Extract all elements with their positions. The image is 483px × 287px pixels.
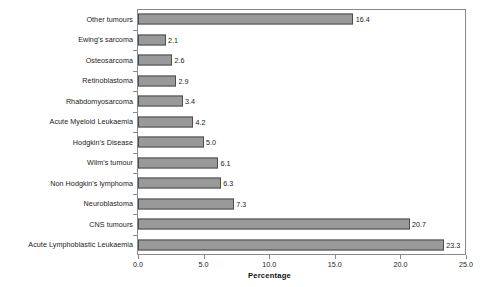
x-axis-tick — [335, 255, 336, 259]
y-axis-tick — [133, 112, 137, 113]
x-axis-tick-label: 25.0 — [446, 260, 483, 269]
bar-value-label: 3.4 — [185, 97, 195, 106]
bar-row: Other tumours16.4 — [0, 9, 483, 30]
bar-row: Wilm's tumour6.1 — [0, 153, 483, 174]
bar-with-value: 4.2 — [138, 116, 206, 127]
bar — [138, 34, 166, 45]
category-label: Wilm's tumour — [8, 158, 133, 167]
category-label: Acute Lymphoblastic Leukaemia — [8, 240, 133, 249]
bar-value-label: 2.9 — [179, 76, 189, 85]
bar-with-value: 20.7 — [138, 219, 426, 230]
x-axis-tick — [400, 255, 401, 259]
bar-row: Acute Lymphoblastic Leukaemia23.3 — [0, 235, 483, 256]
bar-row: Retinoblastoma2.9 — [0, 71, 483, 92]
category-label: Neuroblastoma — [8, 199, 133, 208]
bar-value-label: 16.4 — [356, 15, 370, 24]
bar-with-value: 3.4 — [138, 96, 195, 107]
bar-row: CNS tumours20.7 — [0, 214, 483, 235]
y-axis-tick — [133, 30, 137, 31]
y-axis-tick — [133, 91, 137, 92]
category-label: Retinoblastoma — [8, 76, 133, 85]
bar-row: Acute Myeloid Leukaemia4.2 — [0, 112, 483, 133]
bar — [138, 116, 193, 127]
bar-row: Neuroblastoma7.3 — [0, 194, 483, 215]
bar-with-value: 5.0 — [138, 137, 216, 148]
bar-value-label: 20.7 — [412, 220, 426, 229]
bar — [138, 96, 183, 107]
bar-with-value: 2.1 — [138, 34, 178, 45]
y-axis-tick — [133, 50, 137, 51]
category-label: Non Hodgkin's lymphoma — [8, 179, 133, 188]
bar-with-value: 2.6 — [138, 55, 185, 66]
x-axis-tick-label: 10.0 — [249, 260, 289, 269]
bar-with-value: 2.9 — [138, 75, 189, 86]
bar-value-label: 6.1 — [221, 158, 231, 167]
bar-value-label: 7.3 — [236, 199, 246, 208]
bar — [138, 75, 176, 86]
bar-row: Ewing's sarcoma2.1 — [0, 30, 483, 51]
y-axis-tick — [133, 153, 137, 154]
bar — [138, 157, 218, 168]
bar-with-value: 16.4 — [138, 14, 370, 25]
bar-value-label: 5.0 — [206, 138, 216, 147]
category-label: Other tumours — [8, 15, 133, 24]
y-axis-tick — [133, 132, 137, 133]
bar-row: Osteosarcoma2.6 — [0, 50, 483, 71]
bar-with-value: 23.3 — [138, 239, 460, 250]
y-axis-tick — [133, 71, 137, 72]
category-label: Osteosarcoma — [8, 56, 133, 65]
bar — [138, 219, 410, 230]
x-axis-tick-label: 15.0 — [315, 260, 355, 269]
bar-row: Non Hodgkin's lymphoma6.3 — [0, 173, 483, 194]
bar-with-value: 6.3 — [138, 178, 233, 189]
category-label: Rhabdomyosarcoma — [8, 97, 133, 106]
x-axis-title: Percentage — [28, 271, 483, 280]
y-axis-tick — [133, 235, 137, 236]
x-axis-tick — [138, 255, 139, 259]
bar-row: Rhabdomyosarcoma3.4 — [0, 91, 483, 112]
y-axis-tick — [133, 194, 137, 195]
x-axis-tick — [269, 255, 270, 259]
bar — [138, 178, 221, 189]
x-axis-tick — [204, 255, 205, 259]
category-label: CNS tumours — [8, 220, 133, 229]
bar-value-label: 6.3 — [223, 179, 233, 188]
category-label: Ewing's sarcoma — [8, 35, 133, 44]
y-axis-tick — [133, 173, 137, 174]
bar — [138, 14, 353, 25]
bar-rows: Other tumours16.4Ewing's sarcoma2.1Osteo… — [0, 9, 483, 255]
bar — [138, 239, 444, 250]
bar-row: Hodgkin's Disease5.0 — [0, 132, 483, 153]
bar — [138, 55, 172, 66]
bar-chart: Other tumours16.4Ewing's sarcoma2.1Osteo… — [0, 0, 483, 287]
bar — [138, 137, 204, 148]
category-label: Hodgkin's Disease — [8, 138, 133, 147]
bar-with-value: 6.1 — [138, 157, 231, 168]
x-axis-tick-label: 20.0 — [380, 260, 420, 269]
bar-value-label: 2.1 — [168, 35, 178, 44]
y-axis-tick — [133, 214, 137, 215]
bar-with-value: 7.3 — [138, 198, 246, 209]
bar-value-label: 4.2 — [196, 117, 206, 126]
x-axis-tick — [466, 255, 467, 259]
category-label: Acute Myeloid Leukaemia — [8, 117, 133, 126]
bar-value-label: 23.3 — [446, 240, 460, 249]
bar — [138, 198, 234, 209]
bar-value-label: 2.6 — [175, 56, 185, 65]
x-axis-tick-label: 5.0 — [184, 260, 224, 269]
x-axis-tick-label: 0.0 — [118, 260, 158, 269]
